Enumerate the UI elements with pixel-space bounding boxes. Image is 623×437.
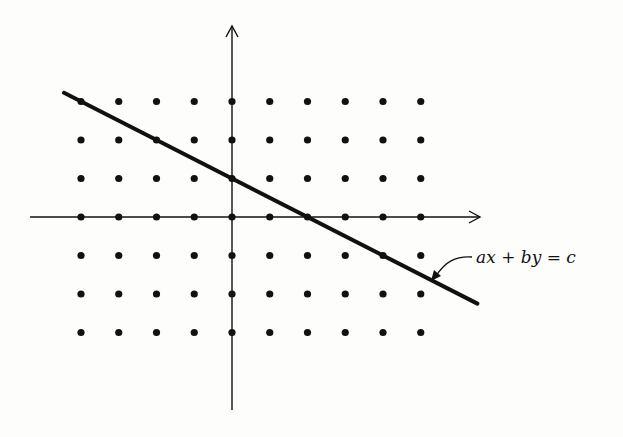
lattice-point bbox=[266, 175, 273, 182]
lattice-point bbox=[266, 329, 273, 336]
lattice-point bbox=[115, 213, 122, 220]
lattice-point bbox=[379, 175, 386, 182]
lattice-point bbox=[191, 175, 198, 182]
lattice-point bbox=[417, 290, 424, 297]
lattice-point bbox=[417, 98, 424, 105]
lattice-point bbox=[304, 252, 311, 259]
lattice-point bbox=[266, 252, 273, 259]
lattice-point bbox=[304, 290, 311, 297]
lattice-point bbox=[379, 329, 386, 336]
lattice-point bbox=[191, 136, 198, 143]
lattice-point bbox=[304, 329, 311, 336]
lattice-point bbox=[304, 136, 311, 143]
lattice-point bbox=[115, 329, 122, 336]
lattice-point bbox=[342, 136, 349, 143]
lattice-point bbox=[342, 252, 349, 259]
lattice-point bbox=[115, 252, 122, 259]
lattice-point bbox=[417, 252, 424, 259]
lattice-point bbox=[115, 98, 122, 105]
lattice-point bbox=[228, 252, 235, 259]
lattice-point bbox=[77, 252, 84, 259]
lattice-point bbox=[417, 136, 424, 143]
lattice-point bbox=[77, 290, 84, 297]
lattice-diagram: ax + by = c bbox=[0, 0, 623, 437]
lattice-point bbox=[266, 290, 273, 297]
lattice-point bbox=[191, 290, 198, 297]
lattice-point bbox=[228, 98, 235, 105]
lattice-point bbox=[379, 213, 386, 220]
lattice-point bbox=[153, 252, 160, 259]
lattice-point bbox=[342, 213, 349, 220]
lattice-point bbox=[115, 136, 122, 143]
lattice-point bbox=[115, 290, 122, 297]
lattice-point bbox=[153, 329, 160, 336]
lattice-point bbox=[342, 290, 349, 297]
lattice-point bbox=[191, 98, 198, 105]
lattice-point bbox=[417, 175, 424, 182]
lattice-point bbox=[266, 136, 273, 143]
lattice-point bbox=[342, 329, 349, 336]
lattice-point bbox=[228, 136, 235, 143]
line-ax-by-c bbox=[64, 93, 477, 304]
lattice-point bbox=[379, 136, 386, 143]
lattice-point bbox=[115, 175, 122, 182]
lattice-point bbox=[77, 213, 84, 220]
lattice-point bbox=[153, 175, 160, 182]
lattice-point bbox=[153, 213, 160, 220]
lattice-point bbox=[191, 252, 198, 259]
lattice-point bbox=[77, 136, 84, 143]
label-pointer-arrow bbox=[436, 257, 472, 276]
lattice-point bbox=[342, 98, 349, 105]
lattice-point bbox=[266, 98, 273, 105]
lattice-point bbox=[304, 175, 311, 182]
lattice-point bbox=[342, 175, 349, 182]
lattice-point bbox=[379, 98, 386, 105]
lattice-point bbox=[77, 329, 84, 336]
lattice-point bbox=[266, 213, 273, 220]
lattice-point bbox=[228, 329, 235, 336]
lattice-point bbox=[379, 290, 386, 297]
lattice-point bbox=[417, 329, 424, 336]
lattice-point bbox=[77, 175, 84, 182]
lattice-point bbox=[191, 329, 198, 336]
lattice-point bbox=[191, 213, 198, 220]
equation-label: ax + by = c bbox=[476, 247, 576, 267]
lattice-point bbox=[417, 213, 424, 220]
lattice-point bbox=[228, 290, 235, 297]
lattice-point bbox=[228, 213, 235, 220]
lattice-point bbox=[153, 290, 160, 297]
lattice-point bbox=[153, 98, 160, 105]
lattice-point bbox=[304, 98, 311, 105]
